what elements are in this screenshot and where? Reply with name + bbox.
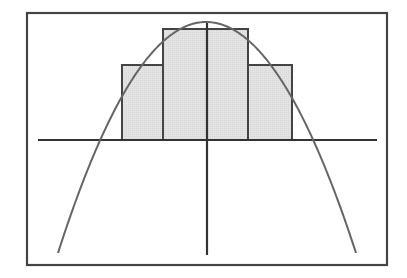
rectangle-bar-2: [163, 29, 207, 140]
rectangle-bar-3: [207, 29, 248, 140]
rectangle-bar-4: [248, 65, 292, 140]
rectangle-bar-1: [122, 65, 163, 140]
diagram-canvas: [0, 0, 407, 278]
riemann-sum-diagram: [0, 0, 407, 278]
